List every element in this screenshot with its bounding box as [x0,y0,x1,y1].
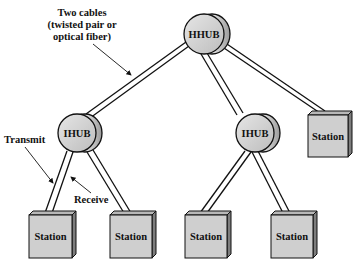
cable-ihub-right-station-4 [252,151,290,213]
station-label: Station [190,231,222,242]
station-3: Station [185,211,231,258]
station-4: Station [271,211,317,258]
hub-topology-diagram: HHUB IHUB IHUB Station Station Station S… [0,0,358,268]
station-1: Station [29,211,76,258]
receive-label: Receive [74,194,109,205]
cable-ihub-left-station-1 [45,151,73,213]
cables-label-line-1: Two cables [57,7,106,18]
cable-hhub-ihub-right [201,53,243,115]
cable-ihub-right-station-3 [200,151,251,213]
station-label: Station [276,231,308,242]
station-right-top: Station [308,111,352,157]
station-label: Station [312,131,344,142]
cables-annotation: Two cables (twisted pair or optical fibe… [47,7,131,75]
cables-pointer-arrow [93,44,131,75]
receive-pointer-arrow [71,177,91,193]
hub-ihub-right: IHUB [236,114,280,152]
hub-label: HHUB [189,29,220,40]
hub-label: IHUB [242,128,269,139]
receive-annotation: Receive [71,177,109,205]
transmit-pointer-arrow [25,147,53,183]
station-label: Station [115,231,147,242]
transmit-label: Transmit [4,134,46,145]
cables-label-line-3: optical fiber) [53,31,112,43]
hub-ihub-left: IHUB [58,114,102,152]
cable-hhub-ihub-left [86,42,189,118]
station-2: Station [110,211,156,258]
hub-label: IHUB [64,128,91,139]
station-label: Station [34,231,66,242]
cables-label-line-2: (twisted pair or [47,19,117,31]
transmit-annotation: Transmit [4,134,53,183]
hub-hhub: HHUB [184,14,230,54]
